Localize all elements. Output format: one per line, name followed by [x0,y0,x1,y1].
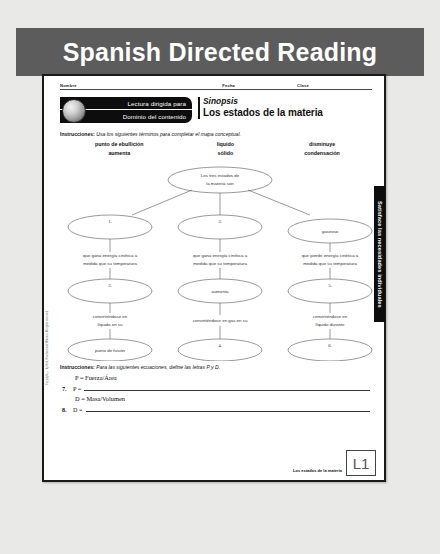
field-label-clase: Clase [297,83,372,88]
instructions-2-text: Para las siguientes ecuaciones, define l… [96,364,220,370]
instructions-2: Instrucciones: Para las siguientes ecuac… [60,364,372,370]
page-title: Los estados de la materia [203,107,323,119]
link-text-1b: medida que su temperatura [83,261,137,266]
link-text-5b: medida que su temperatura [303,261,357,266]
word-bank-term: aumenta [60,150,179,156]
series-logo: Lectura dirigida para Dominio del conten… [60,97,192,124]
concept-oval-5-number: 5. [328,283,332,288]
word-bank-term: disminuye [272,141,372,147]
answer-blank-8[interactable] [86,405,370,412]
concept-oval-punto-fusion-label: punto de fusión [95,348,126,353]
word-bank-term: líquido [179,141,273,147]
answer-blank-7[interactable] [84,384,370,391]
instructions-1-text: Usa los siguientes términos para complet… [96,131,241,137]
root-label-line2: la materia son [206,181,234,186]
concept-oval-4-number: 4. [218,343,222,348]
word-bank: punto de ebullición líquido disminuye au… [60,141,372,156]
equation-prompt-p: P = [73,385,81,392]
concept-oval-3-number: 3. [218,219,222,224]
concept-oval-2-number: 2. [108,283,112,288]
equation-answer-row: 7. P = [62,384,370,392]
word-bank-term: sólido [179,150,273,156]
instructions-1-label: Instrucciones: [60,131,95,137]
word-bank-row: aumenta sólido condensación [60,150,372,156]
worksheet-footer: Los estados de la materia L1 [293,450,376,476]
equation-answer-row: 8. D = [62,405,370,413]
equation-formula-d: D = Masa/Volumen [75,395,125,402]
title-eyebrow: Sinopsis [203,97,323,107]
link-text-2a: convirtiéndose en [93,314,128,319]
worksheet-page: Satisface las necesidades individuales C… [42,74,386,482]
concept-oval-aumenta-label: aumenta [211,289,229,294]
student-info-row: Nombre Fecha Clase [60,83,372,90]
link-text-4a: convirtiéndose en gas en su [193,318,248,323]
link-text-6a: convirtiéndose en [313,314,348,319]
link-text-5a: que pierde energía cinética a [302,253,359,258]
link-text-1a: que gana energía cinética a [83,253,138,258]
banner-title: Spanish Directed Reading [63,38,378,67]
link-text-6b: líquido durante [315,322,345,327]
sphere-icon [62,99,86,123]
equation-prompt-d: D = [73,406,83,413]
concept-oval-6-number: 6. [328,343,332,348]
instructions-2-label: Instrucciones: [60,364,95,370]
concept-oval-1-number: 1. [108,219,112,224]
equation-formula-p: P = Fuerza/Área [75,374,117,381]
equation-number-8: 8. [62,406,73,413]
title-block: Sinopsis Los estados de la materia [198,97,323,119]
concept-map-root-oval [168,167,272,193]
concept-oval-gaseoso-label: gaseoso [322,229,339,234]
equation-number-7: 7. [62,385,73,392]
equation-formula-row: D = Masa/Volumen [62,395,370,402]
equations-section: P = Fuerza/Área 7. P = D = Masa/Volumen … [60,374,372,413]
link-text-2b: líquido en su [98,322,123,327]
page-banner: Spanish Directed Reading [16,28,424,76]
concept-map: Los tres estados de la materia son 1. qu… [62,163,370,361]
word-bank-term: punto de ebullición [60,141,179,147]
link-text-3a: que gana energía cinética a [193,253,248,258]
field-label-fecha: Fecha [222,83,297,88]
word-bank-term: condensación [272,150,372,156]
worksheet-header: Lectura dirigida para Dominio del conten… [60,97,372,124]
instructions-1: Instrucciones: Usa los siguientes términ… [60,131,372,137]
field-label-nombre: Nombre [60,83,222,88]
equation-formula-row: P = Fuerza/Área [62,374,370,381]
link-text-3b: medida que su temperatura [193,261,247,266]
word-bank-row: punto de ebullición líquido disminuye [60,141,372,147]
footer-title: Los estados de la materia [293,468,342,476]
level-badge: L1 [346,450,376,476]
root-label-line1: Los tres estados de [201,173,240,178]
